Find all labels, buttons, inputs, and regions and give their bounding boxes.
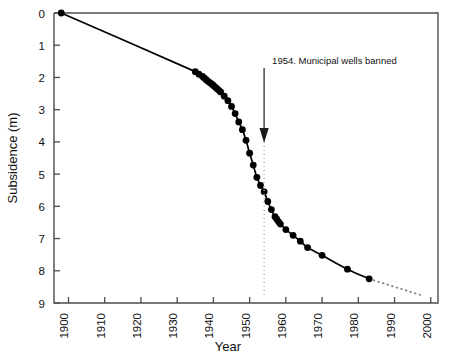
y-tick-label: 9 — [39, 298, 45, 310]
subsidence-chart-figure: 0123456789 19001910192019301940195019601… — [0, 0, 454, 361]
data-point — [235, 119, 242, 126]
x-tick-label: 1960 — [276, 313, 288, 339]
annotation-label: 1954. Municipal wells banned — [272, 55, 397, 66]
x-tick-label: 1900 — [58, 313, 70, 339]
data-point — [243, 137, 250, 144]
x-tick-label: 1970 — [312, 313, 324, 339]
data-point — [58, 10, 65, 17]
data-point — [228, 103, 235, 110]
chart-canvas: 0123456789 19001910192019301940195019601… — [0, 0, 454, 361]
y-tick-label: 8 — [39, 265, 45, 277]
y-tick-label: 3 — [39, 104, 45, 116]
data-point — [304, 244, 311, 251]
y-tick-label: 4 — [39, 136, 46, 148]
data-point — [268, 206, 275, 213]
data-point — [250, 162, 257, 169]
data-point — [253, 174, 260, 181]
data-point — [224, 97, 231, 104]
y-tick-label: 5 — [39, 169, 45, 181]
data-point — [297, 238, 304, 245]
data-point — [257, 182, 264, 189]
y-tick-label: 7 — [39, 233, 45, 245]
data-point — [239, 126, 246, 133]
x-tick-label: 2000 — [421, 313, 433, 339]
x-tick-label: 1910 — [95, 313, 107, 339]
data-point — [264, 198, 271, 205]
x-tick-label: 1920 — [131, 313, 143, 339]
x-tick-label: 1990 — [385, 313, 397, 339]
data-point — [319, 252, 326, 259]
y-tick-label: 2 — [39, 72, 45, 84]
x-axis-title: Year — [215, 339, 242, 354]
y-tick-label: 0 — [39, 8, 45, 20]
y-tick-label: 1 — [39, 40, 45, 52]
y-tick-label: 6 — [39, 201, 45, 213]
data-point — [232, 110, 239, 117]
x-tick-label: 1940 — [203, 313, 215, 339]
data-point — [282, 226, 289, 233]
data-point — [246, 150, 253, 157]
data-point — [277, 221, 284, 228]
data-point — [366, 275, 373, 282]
x-tick-label: 1930 — [167, 313, 179, 339]
y-axis-title: Subsidence (m) — [5, 112, 20, 203]
data-point — [290, 232, 297, 239]
data-point — [344, 266, 351, 273]
x-tick-label: 1950 — [240, 313, 252, 339]
x-tick-label: 1980 — [348, 313, 360, 339]
